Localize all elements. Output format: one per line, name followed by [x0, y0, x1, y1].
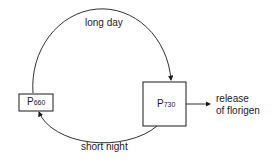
- p730-letter: P: [157, 98, 164, 109]
- short-night-label: short night: [81, 141, 128, 152]
- long-day-label: long day: [85, 17, 123, 28]
- p660-label: P660: [27, 96, 45, 107]
- cycle-diagram-graphics: [0, 0, 272, 164]
- p660-letter: P: [27, 96, 34, 107]
- output-label-line2: of florigen: [216, 105, 260, 116]
- short-night-arc: [39, 112, 157, 143]
- p660-subscript: 660: [34, 99, 46, 106]
- output-label-line1: release: [216, 93, 249, 104]
- p730-label: P730: [157, 98, 175, 109]
- p730-subscript: 730: [164, 101, 176, 108]
